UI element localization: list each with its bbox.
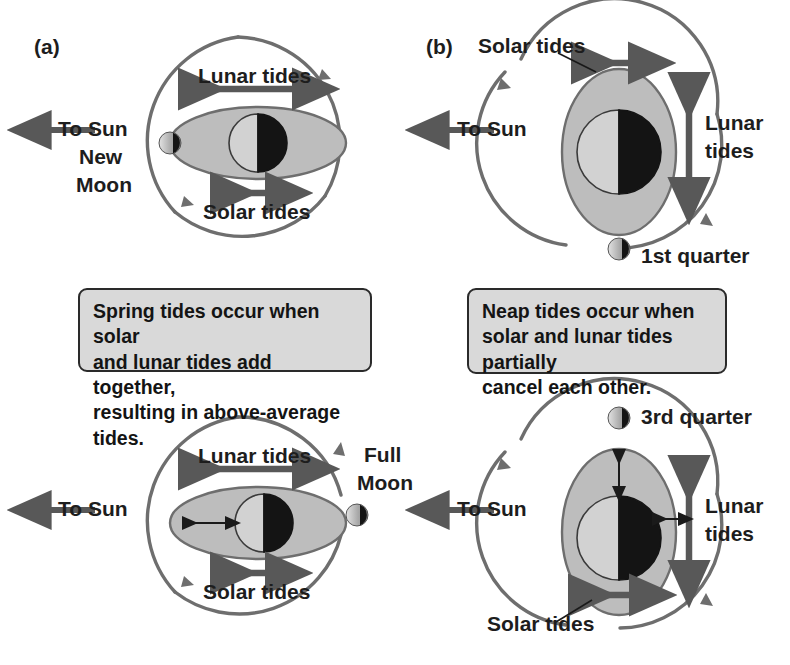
orbit-direction-arrow-lower-right (700, 593, 713, 606)
panel-a-bottom-to-sun-label: To Sun (58, 497, 128, 521)
panel-b-top-to-sun-label: To Sun (457, 117, 527, 141)
orbit-direction-arrow-left (181, 196, 194, 207)
orbit-direction-arrow-right (318, 69, 331, 80)
panel-b-bottom-to-sun-label: To Sun (457, 497, 527, 521)
panel-b-bottom-lunar-tides-label-line2: tides (705, 522, 754, 546)
spring-tides-caption-line2: and lunar tides add together, (93, 350, 357, 401)
neap-tides-caption-line3: cancel each other. (482, 375, 712, 400)
panel-a-top-lunar-tides-label: Lunar tides (198, 64, 311, 88)
panel-a-top-solar-tides-label: Solar tides (203, 200, 310, 224)
orbit-direction-arrow-lower-right (700, 213, 713, 226)
panel-b-top-lunar-tides-label-line1: Lunar (705, 111, 763, 135)
panel-a-top-moon-label-line1: New (79, 145, 122, 169)
tides-figure: (a) Lunar tides Solar tides To Sun New M… (0, 0, 790, 665)
panel-a-top-moon-label-line2: Moon (76, 173, 132, 197)
orbit-direction-arrow-left (181, 576, 194, 587)
orbit-arc-left (477, 452, 566, 625)
panel-b-tag: (b) (426, 35, 453, 59)
panel-a-bottom-moon-label-line2: Moon (357, 471, 413, 495)
spring-tides-caption-line3: resulting in above-average tides. (93, 400, 357, 451)
neap-tides-caption-line2: solar and lunar tides partially (482, 324, 712, 375)
spring-tides-caption-line1: Spring tides occur when solar (93, 299, 357, 350)
panel-a-bottom-moon-label-line1: Full (364, 443, 401, 467)
orbit-arc-left (477, 72, 566, 245)
panel-b-top-solar-tides-label: Solar tides (478, 34, 585, 58)
panel-b-top-moon-label: 1st quarter (641, 244, 750, 268)
neap-tides-caption-line1: Neap tides occur when (482, 299, 712, 324)
panel-a-top-to-sun-label: To Sun (58, 117, 128, 141)
spring-tides-callout: Spring tides occur when solar and lunar … (78, 288, 372, 372)
panel-a-bottom-solar-tides-label: Solar tides (203, 580, 310, 604)
panel-a-tag: (a) (34, 35, 60, 59)
panel-b-top-lunar-tides-label-line2: tides (705, 139, 754, 163)
neap-tides-callout: Neap tides occur when solar and lunar ti… (467, 288, 727, 374)
panel-b-bottom-moon-label: 3rd quarter (641, 405, 752, 429)
panel-b-bottom-solar-tides-label: Solar tides (487, 612, 594, 636)
panel-b-bottom-lunar-tides-label-line1: Lunar (705, 494, 763, 518)
